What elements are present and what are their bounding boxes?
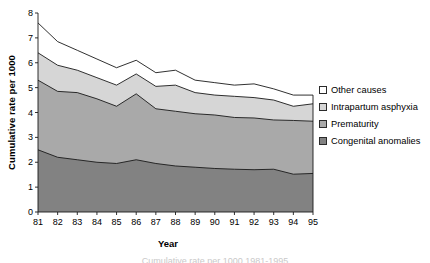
legend-swatch-other-causes	[319, 86, 327, 94]
x-tick-label: 81	[33, 217, 43, 227]
x-tick-label: 94	[288, 217, 298, 227]
y-tick-label: 3	[28, 132, 33, 142]
y-tick-label: 6	[28, 58, 33, 68]
legend-swatch-prematurity	[319, 120, 327, 128]
legend-item-other-causes: Other causes	[319, 82, 430, 98]
x-axis-title: Year	[22, 238, 314, 249]
x-tick-label: 88	[170, 217, 180, 227]
stacked-area-plot: 012345678818283848586878889909192939495	[22, 4, 322, 232]
legend-swatch-intrapartum-asphyxia	[319, 103, 327, 111]
y-axis-title-label: Cumulative rate per 1000	[6, 55, 17, 170]
y-tick-label: 0	[28, 207, 33, 217]
x-tick-label: 93	[269, 217, 279, 227]
x-tick-label: 84	[92, 217, 102, 227]
y-tick-label: 7	[28, 33, 33, 43]
x-tick-label: 92	[249, 217, 259, 227]
x-tick-label: 85	[112, 217, 122, 227]
y-axis-title: Cumulative rate per 1000	[0, 0, 22, 225]
y-tick-label: 4	[28, 108, 33, 118]
figure-caption: Cumulative rate per 1000 1981-1995	[0, 256, 430, 263]
legend-label-other-causes: Other causes	[331, 85, 386, 95]
legend-swatch-congenital-anomalies	[319, 137, 327, 145]
chart-legend: Other causes Intrapartum asphyxia Premat…	[319, 82, 430, 150]
legend-item-congenital-anomalies: Congenital anomalies	[319, 133, 430, 149]
x-tick-label: 87	[151, 217, 161, 227]
y-tick-label: 8	[28, 8, 33, 18]
legend-item-intrapartum-asphyxia: Intrapartum asphyxia	[319, 99, 430, 115]
x-tick-label: 90	[210, 217, 220, 227]
y-tick-label: 5	[28, 83, 33, 93]
x-tick-label: 91	[229, 217, 239, 227]
y-tick-label: 1	[28, 182, 33, 192]
chart-figure: Cumulative rate per 1000 012345678818283…	[0, 0, 430, 263]
legend-label-intrapartum-asphyxia: Intrapartum asphyxia	[331, 102, 418, 112]
x-tick-label: 86	[131, 217, 141, 227]
x-tick-label: 95	[308, 217, 318, 227]
legend-label-prematurity: Prematurity	[331, 119, 379, 129]
x-tick-label: 82	[53, 217, 63, 227]
y-tick-label: 2	[28, 157, 33, 167]
x-tick-label: 83	[72, 217, 82, 227]
legend-item-prematurity: Prematurity	[319, 116, 430, 132]
plot-area: 012345678818283848586878889909192939495	[22, 4, 322, 232]
legend-label-congenital-anomalies: Congenital anomalies	[331, 136, 420, 146]
x-tick-label: 89	[190, 217, 200, 227]
